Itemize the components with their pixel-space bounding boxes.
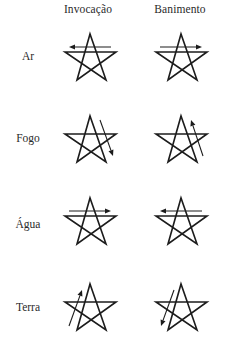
pentagram-star-icon xyxy=(156,198,207,244)
column-header-banishing: Banimento xyxy=(140,3,220,15)
row-label-água: Água xyxy=(0,218,56,230)
banishing-pentagram-ar xyxy=(146,28,216,88)
pentagram-star-icon xyxy=(65,116,116,162)
pentagram-icon xyxy=(146,192,216,252)
invocation-pentagram-terra xyxy=(55,278,125,338)
banishing-pentagram-água xyxy=(146,192,216,252)
pentagram-star-icon xyxy=(156,34,207,80)
invocation-pentagram-fogo xyxy=(55,110,125,170)
pentagram-icon xyxy=(55,110,125,170)
arrow-left-icon xyxy=(160,208,202,213)
pentagram-star-icon xyxy=(156,116,207,162)
arrow-right-icon xyxy=(160,44,202,49)
pentagram-star-icon xyxy=(65,34,116,80)
pentagram-icon xyxy=(146,28,216,88)
invocation-pentagram-ar xyxy=(55,28,125,88)
column-header-invocation: Invocação xyxy=(48,3,128,15)
pentagram-star-icon xyxy=(65,198,116,244)
row-label-terra: Terra xyxy=(0,301,56,313)
arrow-right-icon xyxy=(69,208,111,213)
row-label-ar: Ar xyxy=(0,50,56,62)
pentagram-icon xyxy=(55,192,125,252)
arrow-left-icon xyxy=(69,44,111,49)
banishing-pentagram-terra xyxy=(146,278,216,338)
pentagram-icon xyxy=(146,110,216,170)
pentagram-icon xyxy=(55,28,125,88)
banishing-pentagram-fogo xyxy=(146,110,216,170)
arrow-down-left-icon xyxy=(161,290,174,326)
pentagram-icon xyxy=(146,278,216,338)
pentagram-icon xyxy=(55,278,125,338)
pentagram-star-icon xyxy=(65,284,116,330)
invocation-pentagram-água xyxy=(55,192,125,252)
row-label-fogo: Fogo xyxy=(0,132,56,144)
